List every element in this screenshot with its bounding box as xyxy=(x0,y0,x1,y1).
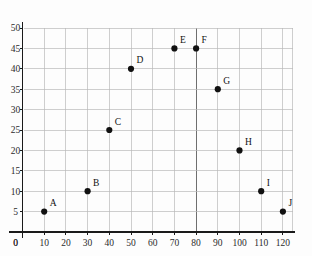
data-point-group: D xyxy=(128,55,144,72)
data-point-marker xyxy=(85,188,91,194)
data-point-group: F xyxy=(193,35,207,52)
plot-canvas: 0102030405060708090100110120051015202530… xyxy=(0,0,312,256)
data-point-marker xyxy=(128,66,134,72)
tick-label-layer: 0102030405060708090100110120051015202530… xyxy=(11,23,291,247)
data-point-marker xyxy=(41,209,47,215)
data-point-label: G xyxy=(223,76,230,86)
y-tick-label: 5 xyxy=(13,207,18,217)
data-point-label: A xyxy=(50,198,57,208)
x-tick-label: 110 xyxy=(254,238,268,248)
data-point-group: B xyxy=(85,178,100,195)
x-tick-label: 100 xyxy=(232,238,247,248)
scatter-plot-figure: 0102030405060708090100110120051015202530… xyxy=(0,0,312,256)
y-tick-label: 0 xyxy=(13,238,18,248)
x-tick-label: 60 xyxy=(148,238,158,248)
data-point-group: C xyxy=(106,117,121,134)
y-tick-label: 50 xyxy=(11,23,21,33)
data-point-group: I xyxy=(258,178,270,195)
data-point-label: C xyxy=(115,117,121,127)
y-tick-label: 45 xyxy=(11,44,21,54)
data-point-group: E xyxy=(171,35,186,52)
y-tick-label: 15 xyxy=(11,166,21,176)
data-points-layer: ABCDEFGHIJ xyxy=(41,35,292,215)
x-tick-label: 70 xyxy=(170,238,180,248)
data-point-marker xyxy=(236,147,242,153)
data-point-marker xyxy=(171,45,177,51)
data-point-marker xyxy=(280,209,286,215)
data-point-label: D xyxy=(137,55,144,65)
grid-layer xyxy=(24,28,293,232)
data-point-label: B xyxy=(93,178,99,188)
data-point-marker xyxy=(193,45,199,51)
x-tick-label: 30 xyxy=(83,238,93,248)
y-tick-label: 35 xyxy=(11,85,21,95)
y-tick-label: 10 xyxy=(11,187,21,197)
data-point-label: E xyxy=(180,35,186,45)
x-tick-label: 20 xyxy=(61,238,71,248)
y-tick-label: 30 xyxy=(11,105,21,115)
data-point-group: H xyxy=(236,137,252,154)
data-point-marker xyxy=(258,188,264,194)
data-point-marker xyxy=(215,86,221,92)
data-point-marker xyxy=(106,127,112,133)
x-tick-label: 10 xyxy=(39,238,49,248)
x-tick-label: 50 xyxy=(126,238,136,248)
x-tick-label: 120 xyxy=(276,238,291,248)
x-tick-label: 90 xyxy=(213,238,223,248)
y-tick-label: 25 xyxy=(11,125,21,135)
data-point-group: G xyxy=(215,76,231,93)
data-point-label: I xyxy=(267,178,270,188)
x-tick-label: 40 xyxy=(105,238,115,248)
data-point-label: H xyxy=(245,137,252,147)
data-point-label: J xyxy=(288,198,292,208)
x-tick-label: 80 xyxy=(191,238,201,248)
data-point-label: F xyxy=(202,35,207,45)
data-point-group: J xyxy=(280,198,293,215)
data-point-group: A xyxy=(41,198,57,215)
y-tick-label: 20 xyxy=(11,146,21,156)
y-tick-label: 40 xyxy=(11,64,21,74)
